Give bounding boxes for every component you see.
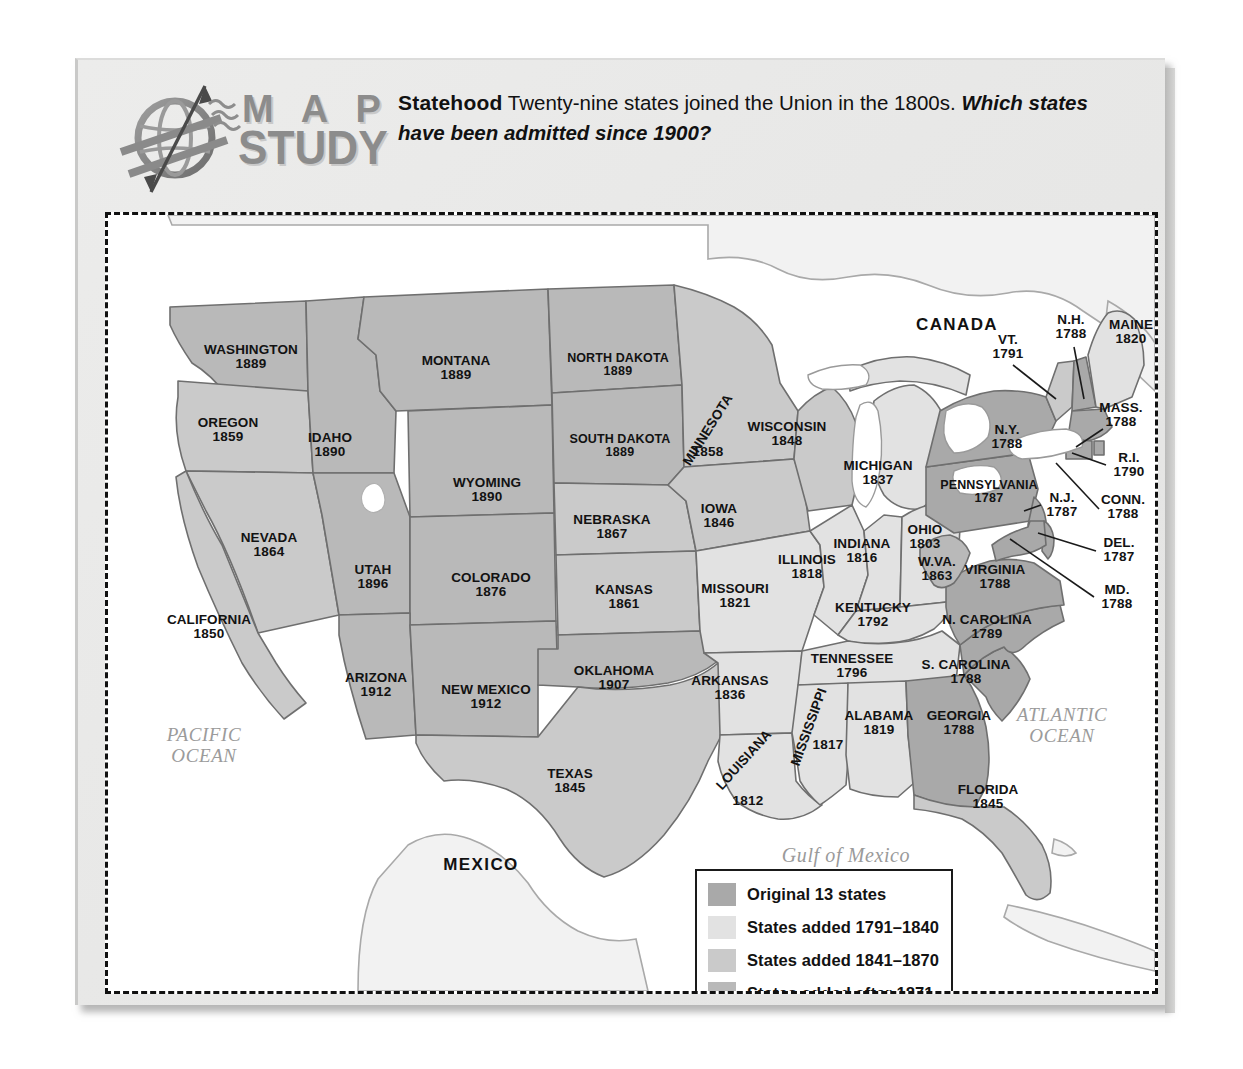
map-study-header: M A P STUDY Statehood Twenty-nine states… (78, 60, 1165, 210)
legend-row: States added after 1871 (697, 977, 951, 994)
map-study-card: M A P STUDY Statehood Twenty-nine states… (75, 58, 1165, 1005)
legend-label-1841-1870: States added 1841–1870 (747, 951, 939, 970)
legend-row: States added 1791–1840 (697, 911, 951, 944)
page-title: Statehood (398, 91, 502, 114)
legend-swatch-original-13 (708, 883, 736, 906)
legend-swatch-1841-1870 (708, 949, 736, 972)
legend-swatch-after-1871 (708, 982, 736, 994)
united-states-map-graphic: .s{stroke:#6f6f6f;stroke-width:1.6;strok… (108, 215, 1155, 991)
legend-label-after-1871: States added after 1871 (747, 984, 934, 994)
legend-row: Original 13 states (697, 878, 951, 911)
legend-label-original-13: Original 13 states (747, 885, 886, 904)
headline-lead: Twenty-nine states joined the Union in t… (508, 91, 956, 114)
headline-block: Statehood Twenty-nine states joined the … (398, 88, 1098, 148)
map-legend: Original 13 states States added 1791–184… (695, 869, 953, 994)
legend-swatch-1791-1840 (708, 916, 736, 939)
legend-row: States added 1841–1870 (697, 944, 951, 977)
page-root: M A P STUDY Statehood Twenty-nine states… (0, 0, 1243, 1069)
globe-compass-icon (113, 74, 243, 204)
legend-label-1791-1840: States added 1791–1840 (747, 918, 939, 937)
wordmark-line-study: STUDY (238, 124, 388, 172)
map-study-wordmark: M A P STUDY (238, 80, 418, 190)
map-plate: .s{stroke:#6f6f6f;stroke-width:1.6;strok… (105, 212, 1158, 994)
